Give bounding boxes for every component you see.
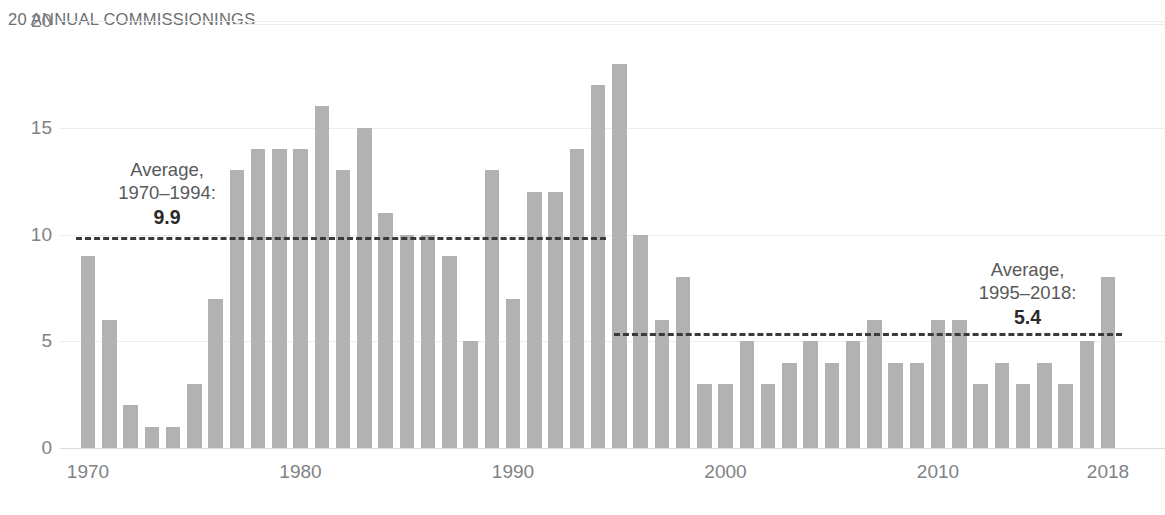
bar-1973 (145, 427, 160, 448)
annotation-label-line1: Average, (925, 258, 1130, 281)
x-tick-label-2018: 2018 (1087, 462, 1129, 481)
x-tick-label-2010: 2010 (917, 462, 959, 481)
bar-2008 (888, 363, 903, 448)
bar-1981 (315, 106, 330, 448)
annotation-label-line2: 1995–2018: (925, 281, 1130, 304)
bar-1984 (378, 213, 393, 448)
plot-area: 20151050 Average,1970–1994:9.9Average,19… (0, 0, 1165, 515)
bar-2001 (740, 341, 755, 448)
bar-1971 (102, 320, 117, 448)
average-line-avg-1995-2018 (614, 333, 1122, 336)
bar-1993 (570, 149, 585, 448)
bar-1996 (633, 235, 648, 449)
bar-1985 (400, 235, 415, 449)
bar-1990 (506, 299, 521, 448)
bar-2007 (867, 320, 882, 448)
bar-2014 (1016, 384, 1031, 448)
annotation-avg-1970-1994: Average,1970–1994:9.9 (72, 158, 262, 230)
bar-1994 (591, 85, 606, 448)
bar-1999 (697, 384, 712, 448)
bar-2012 (973, 384, 988, 448)
annotation-value: 5.4 (925, 305, 1130, 330)
average-line-avg-1970-1994 (76, 237, 606, 240)
bar-2005 (825, 363, 840, 448)
bar-1987 (442, 256, 457, 448)
bar-1979 (272, 149, 287, 448)
bar-1980 (293, 149, 308, 448)
bar-1992 (548, 192, 563, 448)
x-tick-label-1980: 1980 (279, 462, 321, 481)
annotation-value: 9.9 (72, 205, 262, 230)
bar-1997 (655, 320, 670, 448)
bar-1974 (166, 427, 181, 448)
bar-1989 (485, 170, 500, 448)
bar-2010 (931, 320, 946, 448)
bar-2015 (1037, 363, 1052, 448)
x-tick-label-1990: 1990 (492, 462, 534, 481)
axis-baseline (60, 448, 1165, 449)
bar-1995 (612, 64, 627, 448)
bar-1975 (187, 384, 202, 448)
bar-1991 (527, 192, 542, 448)
chart-container: 20 ANNUAL COMMISSIONINGS 20151050 Averag… (0, 0, 1165, 515)
bar-1976 (208, 299, 223, 448)
bar-1982 (336, 170, 351, 448)
bar-2016 (1058, 384, 1073, 448)
bar-2002 (761, 384, 776, 448)
bar-2003 (782, 363, 797, 448)
x-tick-label-1970: 1970 (67, 462, 109, 481)
annotation-avg-1995-2018: Average,1995–2018:5.4 (925, 258, 1130, 330)
x-tick-label-2000: 2000 (704, 462, 746, 481)
bar-2009 (910, 363, 925, 448)
bar-2000 (718, 384, 733, 448)
bar-1986 (421, 235, 436, 449)
bar-1988 (463, 341, 478, 448)
bar-1970 (81, 256, 96, 448)
annotation-label-line2: 1970–1994: (72, 181, 262, 204)
bar-1998 (676, 277, 691, 448)
bar-2013 (995, 363, 1010, 448)
bar-2017 (1080, 341, 1095, 448)
annotation-label-line1: Average, (72, 158, 262, 181)
bar-2004 (803, 341, 818, 448)
bar-1972 (123, 405, 138, 448)
bar-2011 (952, 320, 967, 448)
bar-1983 (357, 128, 372, 448)
bar-2006 (846, 341, 861, 448)
